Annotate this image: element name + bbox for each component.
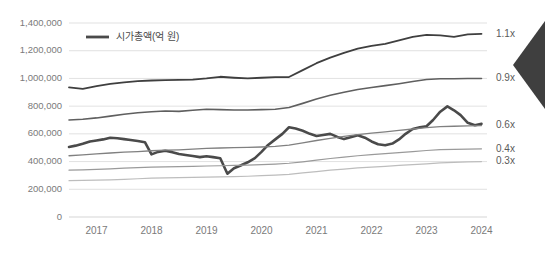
y-axis-tick-label: 1,000,000 [20,72,62,83]
series-lines [69,34,482,181]
series-line [69,78,482,120]
y-axis-tick-label: 1,200,000 [20,44,62,55]
y-axis-tick-labels: 0200,000400,000600,000800,0001,000,0001,… [20,17,62,222]
left-arrow-annotation-icon [513,21,545,109]
y-axis-tick-label: 600,000 [28,127,62,138]
right-axis-multiplier-label: 0.3x [496,155,515,166]
y-axis-tick-label: 0 [57,211,62,222]
x-axis-tick-label: 2023 [415,225,438,236]
x-axis-tick-label: 2022 [360,225,383,236]
legend: 시가총액(억 원) [86,31,179,42]
market-cap-band-chart: 0200,000400,000600,000800,0001,000,0001,… [0,0,549,255]
y-axis-tick-label: 200,000 [28,183,62,194]
right-axis-multiplier-label: 0.6x [496,119,515,130]
x-axis-tick-label: 2021 [305,225,328,236]
right-axis-multiplier-label: 1.1x [496,28,515,39]
y-axis-tick-label: 800,000 [28,100,62,111]
y-axis-tick-label: 1,400,000 [20,17,62,28]
x-axis-tick-label: 2020 [250,225,273,236]
right-axis-labels: 1.1x0.9x0.6x0.4x0.3x [496,28,515,166]
right-axis-multiplier-label: 0.9x [496,72,515,83]
x-axis-tick-label: 2019 [195,225,218,236]
chevron-left-icon [513,21,545,109]
x-axis-tick-label: 2017 [85,225,108,236]
legend-label: 시가총액(억 원) [116,31,179,42]
x-axis-tick-label: 2024 [470,225,493,236]
x-axis-tick-labels: 20172018201920202021202220232024 [85,225,493,236]
gridlines [69,23,487,217]
y-axis-tick-label: 400,000 [28,155,62,166]
x-axis-tick-label: 2018 [140,225,163,236]
chart-svg: 0200,000400,000600,000800,0001,000,0001,… [0,0,549,255]
right-axis-multiplier-label: 0.4x [496,143,515,154]
